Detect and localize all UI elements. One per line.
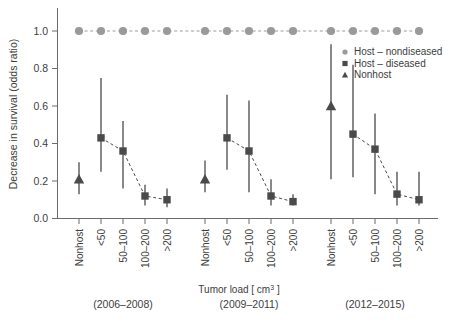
y-tick-label: 0.0 — [33, 212, 48, 224]
x-tick-label: <50 — [222, 229, 233, 246]
y-tick-label: 0.4 — [33, 137, 48, 149]
x-tick-label: >200 — [162, 229, 173, 252]
diseased-marker — [119, 147, 126, 154]
nondiseased-marker — [393, 27, 401, 35]
legend-square-icon — [342, 61, 347, 66]
group-label: (2012–2015) — [345, 298, 405, 310]
x-tick-label: 100–200 — [392, 229, 403, 268]
x-tick-label: 100–200 — [140, 229, 151, 268]
nondiseased-marker — [371, 27, 379, 35]
x-tick-label: >200 — [288, 229, 299, 252]
x-tick-label: 50–100 — [370, 229, 381, 263]
nondiseased-marker — [163, 27, 171, 35]
nondiseased-marker — [245, 27, 253, 35]
diseased-marker — [415, 196, 422, 203]
x-tick-label: 50–100 — [118, 229, 129, 263]
nondiseased-marker — [349, 27, 357, 35]
diseased-marker — [289, 198, 296, 205]
x-tick-label: Nonhost — [74, 229, 85, 266]
x-tick-label: Nonhost — [200, 229, 211, 266]
legend-item-label: Host – diseased — [354, 58, 426, 69]
y-tick-label: 0.2 — [33, 175, 48, 187]
nondiseased-marker — [267, 27, 275, 35]
group-label: (2009–2011) — [220, 298, 279, 310]
group-label-group: (2006–2008)(2009–2011)(2012–2015) — [93, 298, 405, 310]
nondiseased-marker — [75, 27, 83, 35]
x-tick-label: <50 — [348, 229, 359, 246]
nondiseased-marker — [415, 27, 423, 35]
y-tick-label: 1.0 — [33, 25, 48, 37]
diseased-marker — [371, 145, 378, 152]
legend-item-label: Nonhost — [354, 69, 391, 80]
diseased-marker — [393, 190, 400, 197]
x-axis-title: Tumor load [ cm3 ] — [198, 284, 280, 295]
diseased-marker — [163, 196, 170, 203]
diseased-marker — [223, 134, 230, 141]
survival-odds-ratio-chart: 0.00.20.40.60.81.0 Decrease in survival … — [0, 0, 462, 326]
x-tick-label: 50–100 — [244, 229, 255, 263]
nondiseased-marker — [289, 27, 297, 35]
diseased-marker — [245, 147, 252, 154]
nondiseased-marker — [223, 27, 231, 35]
legend-item-label: Host – nondiseased — [354, 46, 442, 57]
diseased-marker — [267, 192, 274, 199]
group-label: (2006–2008) — [93, 298, 153, 310]
y-tick-label: 0.8 — [33, 62, 48, 74]
diseased-marker — [141, 192, 148, 199]
x-tick-label: 100–200 — [266, 229, 277, 268]
nondiseased-marker — [119, 27, 127, 35]
nondiseased-marker — [141, 27, 149, 35]
nondiseased-marker — [201, 27, 209, 35]
x-tick-label: Nonhost — [326, 229, 337, 266]
x-tick-label: >200 — [414, 229, 425, 252]
nondiseased-marker — [97, 27, 105, 35]
x-tick-label: <50 — [96, 229, 107, 246]
y-axis-title: Decrease in survival (odds ratio) — [7, 39, 19, 190]
diseased-marker — [349, 130, 356, 137]
legend-circle-icon — [342, 49, 347, 54]
y-tick-label: 0.6 — [33, 100, 48, 112]
diseased-marker — [97, 134, 104, 141]
nondiseased-marker — [327, 27, 335, 35]
